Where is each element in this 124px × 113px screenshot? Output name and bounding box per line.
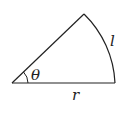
radius-label: r [72, 86, 80, 104]
sector-diagram: θ l r [0, 0, 124, 113]
radius-line-slanted [12, 14, 84, 83]
angle-arc [24, 72, 29, 83]
theta-label: θ [31, 66, 40, 84]
arc-length-label: l [110, 32, 115, 50]
